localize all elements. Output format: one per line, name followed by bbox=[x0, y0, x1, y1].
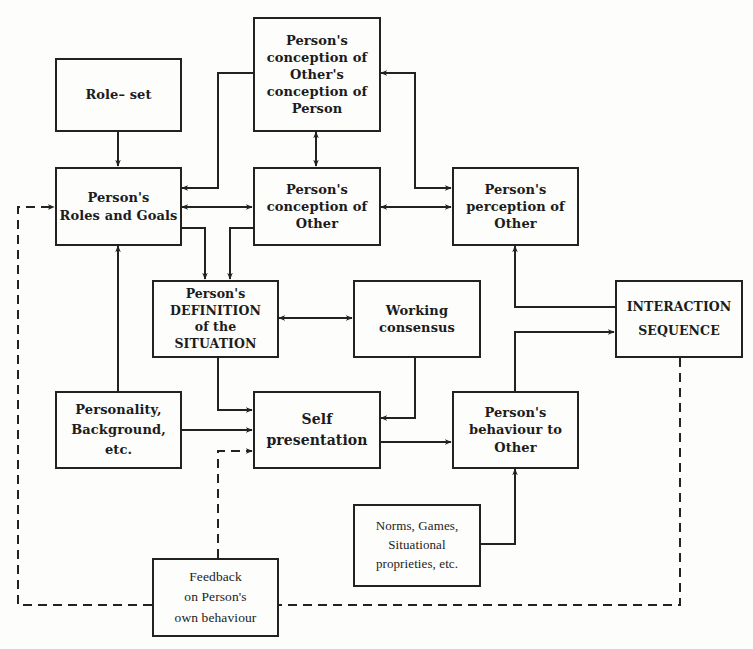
node-self-presentation: Self presentation bbox=[253, 391, 381, 469]
edge-conceptionother-to-definition bbox=[230, 228, 253, 279]
edge-workingconsensus-to-selfpresentation bbox=[381, 357, 415, 418]
node-meta-conception: Person's conception of Other's conceptio… bbox=[253, 17, 381, 132]
edge-metaconception-perceptionother bbox=[381, 73, 451, 188]
edge-metaconception-to-rolesgoals bbox=[182, 73, 253, 188]
edge-definition-to-selfpresentation bbox=[218, 357, 252, 410]
node-conception-other: Person's conception of Other bbox=[253, 167, 381, 246]
node-label: Working consensus bbox=[379, 302, 455, 336]
node-label: Person's conception of Other's conceptio… bbox=[267, 32, 367, 118]
node-label: Feedback on Person's own behaviour bbox=[175, 567, 257, 628]
node-feedback: Feedback on Person's own behaviour bbox=[152, 558, 279, 637]
node-perception-other: Person's perception of Other bbox=[452, 167, 579, 246]
node-label: INTERACTION SEQUENCE bbox=[627, 295, 732, 343]
edge-feedback-to-selfpresentation-dashed bbox=[218, 451, 252, 558]
node-label: Role– set bbox=[85, 86, 151, 103]
node-norms: Norms, Games, Situational proprieties, e… bbox=[353, 504, 481, 587]
node-label: Person's behaviour to Other bbox=[469, 404, 562, 455]
node-label: Person's DEFINITION of the SITUATION bbox=[170, 286, 261, 352]
edge-norms-to-behaviour bbox=[480, 469, 515, 544]
node-roles-goals: Person's Roles and Goals bbox=[55, 167, 182, 246]
node-working-consensus: Working consensus bbox=[353, 280, 481, 358]
node-label: Personality, Background, etc. bbox=[71, 400, 166, 460]
node-label: Self presentation bbox=[266, 409, 367, 451]
node-definition-situation: Person's DEFINITION of the SITUATION bbox=[152, 280, 279, 358]
edge-behaviour-to-interaction bbox=[515, 332, 614, 391]
node-label: Person's Roles and Goals bbox=[60, 189, 178, 223]
edge-interaction-to-perceptionother bbox=[515, 246, 615, 307]
node-label: Person's conception of Other bbox=[267, 181, 367, 232]
node-role-set: Role– set bbox=[55, 58, 182, 132]
node-label: Norms, Games, Situational proprieties, e… bbox=[376, 517, 459, 574]
node-personality: Personality, Background, etc. bbox=[55, 391, 182, 469]
node-interaction-sequence: INTERACTION SEQUENCE bbox=[615, 280, 743, 358]
node-label: Person's perception of Other bbox=[466, 181, 565, 232]
edge-rolesgoals-to-definition bbox=[181, 228, 205, 279]
node-behaviour-other: Person's behaviour to Other bbox=[452, 391, 579, 469]
